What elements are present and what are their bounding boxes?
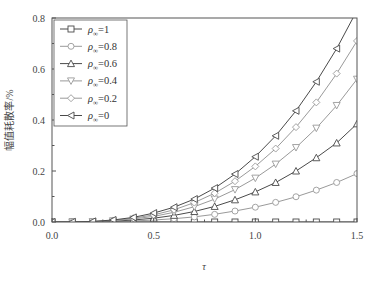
diamond-marker-icon — [232, 178, 239, 185]
x-tick-label: 0.0 — [46, 230, 59, 241]
triangle-up-marker-icon — [232, 196, 239, 203]
triangle-up-marker-icon — [272, 179, 279, 186]
circle-marker-icon — [313, 187, 319, 193]
y-tick-label: 0.8 — [33, 13, 46, 24]
y-tick-label: 0.6 — [33, 64, 46, 75]
circle-marker-icon — [232, 208, 238, 214]
y-tick-label: 0.2 — [33, 166, 46, 177]
triangle-down-marker-icon — [252, 175, 259, 182]
legend: ρ∞=1ρ∞=0.8ρ∞=0.6ρ∞=0.4ρ∞=0.2ρ∞=0 — [54, 20, 127, 126]
x-tick-label: 1.0 — [249, 230, 262, 241]
triangle-up-marker-icon — [252, 188, 259, 195]
triangle-up-marker-icon — [293, 168, 300, 175]
triangle-down-marker-icon — [272, 161, 279, 168]
circle-marker-icon — [212, 211, 218, 217]
diamond-marker-icon — [333, 70, 340, 77]
circle-marker-icon — [334, 179, 340, 185]
y-tick-label: 0.0 — [33, 217, 46, 228]
triangle-up-marker-icon — [211, 203, 218, 210]
triangle-left-marker-icon — [313, 78, 320, 85]
circle-marker-icon — [273, 199, 279, 205]
y-tick-label: 0.4 — [33, 115, 46, 126]
square-marker-icon — [68, 26, 74, 32]
x-axis-label: τ — [202, 261, 206, 272]
triangle-left-marker-icon — [333, 45, 340, 52]
triangle-down-marker-icon — [232, 187, 239, 194]
circle-marker-icon — [252, 204, 258, 210]
y-axis-label: 幅值耗散率/% — [3, 89, 15, 150]
series-line — [49, 120, 361, 225]
chart: 0.00.51.01.50.00.20.40.60.8 ρ∞=1ρ∞=0.8ρ∞… — [0, 0, 373, 283]
circle-marker-icon — [68, 43, 74, 49]
triangle-left-marker-icon — [232, 171, 239, 178]
x-tick-label: 0.5 — [147, 230, 160, 241]
x-tick-label: 1.5 — [351, 230, 364, 241]
triangle-up-marker-icon — [313, 154, 320, 161]
circle-marker-icon — [293, 194, 299, 200]
